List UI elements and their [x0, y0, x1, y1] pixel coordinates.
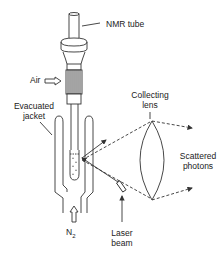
- collecting-lens: [140, 121, 164, 200]
- label-air: Air: [30, 75, 40, 85]
- laser-beam: [82, 158, 126, 222]
- sample-vial: [70, 150, 79, 180]
- label-nmr-tube: NMR tube: [106, 19, 144, 29]
- label-lens: lens: [128, 100, 172, 110]
- n2-subscript: 2: [72, 233, 75, 239]
- air-inlet-arrow: [45, 77, 61, 85]
- label-n2: N2: [66, 227, 75, 241]
- label-laser: Laser: [108, 228, 136, 238]
- n2-inlet-arrow: [70, 206, 78, 222]
- label-evacuated: Evacuated: [12, 101, 56, 111]
- diagram-canvas: [0, 0, 224, 256]
- tube-cap: [61, 38, 87, 70]
- label-collecting: Collecting: [128, 90, 172, 100]
- knurled-collar: [66, 70, 82, 104]
- jacket-pointer: [40, 122, 52, 135]
- label-jacket: jacket: [12, 111, 56, 121]
- label-photons: photons: [176, 161, 220, 171]
- backscatter-arrow: [82, 140, 106, 158]
- nmr-tube-top: [69, 13, 79, 41]
- label-beam: beam: [108, 238, 136, 248]
- nmr-tube-pointer: [82, 23, 100, 26]
- label-scattered: Scattered: [176, 151, 220, 161]
